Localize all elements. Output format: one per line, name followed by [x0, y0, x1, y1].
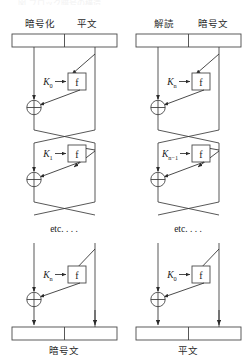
decrypt-r2-xor — [151, 172, 165, 186]
decrypt-r2-key-label: Kn−1 — [161, 149, 178, 161]
decrypt-r1-xor — [151, 100, 165, 114]
encrypt-bottom-label: 暗号文 — [49, 345, 79, 356]
encrypt-r1-key-label: K0 — [42, 77, 53, 89]
header-decrypt-left: 解読 — [154, 18, 174, 29]
encrypt-rn-key-subscript: n — [50, 275, 54, 282]
decrypt-r2-key-subscript: n−1 — [168, 154, 178, 161]
decrypt-r1-key-label: Kn — [166, 77, 177, 89]
decrypt-r1-key-subscript: n — [174, 82, 178, 89]
decrypt-round-final: f K0 — [151, 243, 219, 327]
encrypt-r2-key-subscript: 1 — [50, 154, 53, 161]
encrypt-r2-xor — [27, 172, 41, 186]
decrypt-rn-key-label: K0 — [166, 270, 177, 282]
decrypt-rn-f-to-xor — [164, 283, 204, 297]
diagram-canvas: 暗号化 平文 f K0 — [0, 0, 252, 362]
encrypt-rn-key-label: Kn — [42, 270, 53, 282]
encrypt-round-2: f K1 — [27, 143, 95, 215]
encrypt-etc-label: etc. . . . — [50, 224, 78, 234]
encrypt-r2-key-label: K1 — [42, 149, 53, 161]
encrypt-rn-xor — [27, 292, 41, 306]
decrypt-round-2: f Kn−1 — [151, 143, 219, 215]
decrypt-r1-branch-to-f — [196, 54, 219, 74]
panel-encrypt: 暗号化 平文 f K0 — [12, 18, 117, 356]
feistel-cipher-diagram: 暗号化 平文 f K0 — [0, 0, 252, 362]
decrypt-r2-f-to-xor — [164, 162, 204, 177]
encrypt-r1-branch-to-f — [72, 54, 95, 74]
encrypt-round-final: f Kn — [27, 243, 95, 327]
decrypt-round-1: f Kn — [151, 47, 219, 143]
decrypt-bottom-label: 平文 — [178, 345, 198, 356]
encrypt-r1-f-to-xor — [40, 90, 80, 105]
encrypt-r1-xor — [27, 100, 41, 114]
decrypt-rn-key-subscript: 0 — [174, 275, 177, 282]
panel-decrypt: 解読 暗号文 f Kn — [136, 18, 241, 356]
encrypt-r2-f-to-xor — [40, 162, 80, 177]
header-decrypt-right: 暗号文 — [198, 18, 228, 29]
encrypt-round-1: f K0 — [27, 47, 95, 143]
decrypt-etc-label: etc. . . . — [174, 224, 202, 234]
header-encrypt-right: 平文 — [77, 18, 97, 29]
decrypt-rn-xor — [151, 292, 165, 306]
encrypt-rn-f-to-xor — [40, 283, 80, 297]
decrypt-r1-f-to-xor — [164, 90, 204, 105]
header-encrypt-left: 暗号化 — [25, 18, 55, 29]
encrypt-r1-key-subscript: 0 — [50, 82, 53, 89]
